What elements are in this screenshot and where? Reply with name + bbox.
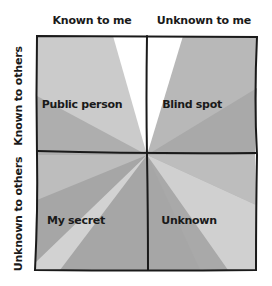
row-label-unknown-to-others: Unknown to others xyxy=(12,157,25,272)
quadrant-public-person xyxy=(37,36,147,155)
row-label-known-to-others: Known to others xyxy=(12,46,25,145)
column-label-unknown-to-me: Unknown to me xyxy=(157,14,251,27)
quadrant-blind-spot xyxy=(147,36,257,155)
quadrant-label-blind-spot: Blind spot xyxy=(162,98,222,111)
quadrant-unknown xyxy=(147,155,256,270)
johari-window-diagram xyxy=(0,0,272,286)
quadrant-my-secret xyxy=(35,155,148,270)
quadrant-label-my-secret: My secret xyxy=(47,214,105,227)
quadrant-label-public-person: Public person xyxy=(42,98,122,111)
column-label-known-to-me: Known to me xyxy=(52,14,131,27)
quadrant-label-unknown: Unknown xyxy=(161,214,216,227)
